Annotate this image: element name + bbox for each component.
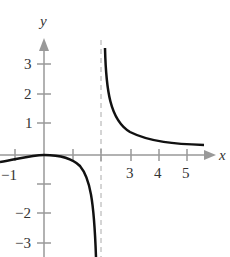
function-graph: y x −1 3 4 5 3 2 1 −2 −3 — [0, 0, 230, 257]
y-tick-label: 3 — [24, 56, 32, 72]
y-tick-label: −3 — [15, 235, 31, 251]
y-tick-label: 2 — [24, 86, 32, 102]
x-tick-label: 4 — [154, 165, 162, 181]
plot-svg: y x −1 3 4 5 3 2 1 −2 −3 — [0, 0, 230, 257]
x-tick-label: −1 — [1, 167, 17, 183]
x-tick-label: 5 — [182, 165, 190, 181]
x-axis-label: x — [218, 147, 226, 163]
x-axis-arrow-icon — [204, 150, 216, 160]
x-tick-label: 3 — [126, 165, 134, 181]
right-branch-curve — [105, 48, 204, 145]
y-axis-label: y — [38, 13, 47, 29]
y-axis-arrow-icon — [39, 38, 49, 51]
y-tick-label: −2 — [15, 205, 31, 221]
y-tick-label: 1 — [25, 115, 33, 131]
